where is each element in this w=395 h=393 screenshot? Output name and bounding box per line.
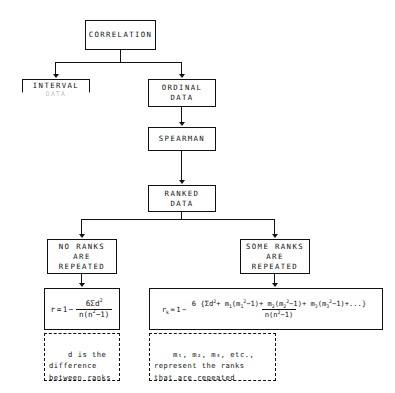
formula-ties-lhs: rk (162, 305, 169, 314)
formula-ties-t2-c: −1) (289, 299, 302, 308)
arrow-formula-right (272, 283, 278, 287)
note-d-definition: d is the difference between ranks (44, 333, 120, 381)
node-ordinal-data-label: ORDINAL DATA (162, 83, 203, 103)
node-spearman[interactable]: SPEARMAN (148, 127, 216, 151)
formula-ties-num-tail: +...} (345, 299, 366, 308)
node-no-ranks-repeated-label: NO RANKS ARE REPEATED (59, 242, 105, 272)
formula-box-ties: rk = 1 − 6 {Σd2+ m1(m12−1)+ m2(m22−1)+ m… (149, 288, 383, 330)
node-ordinal-data[interactable]: ORDINAL DATA (148, 79, 216, 107)
connector-root-down (120, 50, 121, 62)
connector-split-bottom (81, 219, 275, 220)
formula-ties-minus: − (181, 305, 188, 314)
formula-ties-num-lead: 6 {Σd (192, 299, 213, 308)
formula-ties-t1-sub2: 1 (240, 304, 243, 309)
node-no-ranks-repeated[interactable]: NO RANKS ARE REPEATED (47, 239, 117, 274)
formula-box-no-ties: r = 1 − 6Σd2 n(n2−1) (44, 288, 120, 330)
node-spearman-label: SPEARMAN (159, 134, 205, 144)
formula-no-ties: r = 1 − 6Σd2 n(n2−1) (51, 299, 114, 319)
formula-ties-t3-b: (m (318, 299, 327, 308)
formula-ties-t3-sub2: 3 (326, 304, 329, 309)
node-some-ranks-repeated-label: SOME RANKS ARE REPEATED (246, 242, 304, 272)
formula-ties-denominator: n(n2−1) (262, 309, 297, 320)
node-correlation[interactable]: CORRELATION (85, 20, 156, 50)
note-m-definition-text: m₁, m₂, m₃, etc., represent the ranks th… (154, 350, 254, 382)
formula-ties-equals: = (169, 305, 176, 314)
formula-ties-den-b: −1) (280, 310, 293, 319)
formula-no-ties-numerator: 6Σd2 (83, 299, 106, 309)
formula-no-ties-den-a: n(n (79, 310, 93, 319)
formula-ties-numerator: 6 {Σd2+ m1(m12−1)+ m2(m22−1)+ m3(m32−1)+… (189, 299, 369, 309)
node-ranked-data[interactable]: RANKED DATA (148, 185, 216, 212)
formula-ties-t3-a: + m (302, 299, 315, 308)
connector-spearman-to-ranked (181, 151, 182, 182)
formula-ties: rk = 1 − 6 {Σd2+ m1(m12−1)+ m2(m22−1)+ m… (162, 299, 370, 319)
formula-no-ties-fraction: 6Σd2 n(n2−1) (76, 299, 113, 319)
node-some-ranks-repeated[interactable]: SOME RANKS ARE REPEATED (240, 239, 310, 274)
formula-ties-t3-c: −1) (332, 299, 345, 308)
formula-ties-fraction: 6 {Σd2+ m1(m12−1)+ m2(m22−1)+ m3(m32−1)+… (189, 299, 369, 319)
formula-ties-t2-a: + m (259, 299, 272, 308)
formula-no-ties-denominator: n(n2−1) (76, 309, 113, 320)
node-interval-faded-label: DATA (23, 89, 89, 99)
formula-no-ties-num-base: 6Σd (86, 299, 100, 308)
note-m-definition: m₁, m₂, m₃, etc., represent the ranks th… (149, 333, 276, 381)
arrow-ranked (179, 180, 185, 184)
formula-ties-t2-b: (m (275, 299, 284, 308)
arrow-interval (53, 74, 59, 78)
formula-no-ties-num-exp: 2 (99, 297, 102, 303)
formula-ties-t1-c: −1) (246, 299, 259, 308)
formula-no-ties-equals: = (55, 305, 63, 314)
arrow-formula-left (79, 283, 85, 287)
arrow-spearman (179, 122, 185, 126)
correlation-flowchart: CORRELATION INTERVAL DATA ORDINAL DATA S… (0, 0, 395, 393)
formula-ties-den-a: n(n (265, 310, 278, 319)
node-interval[interactable]: INTERVAL DATA (22, 79, 90, 93)
connector-ranked-down (181, 212, 182, 219)
connector-split-top (55, 62, 182, 63)
formula-no-ties-minus: − (67, 305, 75, 314)
formula-ties-t1-a: + m (216, 299, 229, 308)
arrow-ordinal (179, 74, 185, 78)
note-d-definition-text: d is the difference between ranks (49, 350, 111, 382)
node-correlation-label: CORRELATION (89, 30, 153, 40)
arrow-no-ranks (79, 234, 85, 238)
node-ranked-data-label: RANKED DATA (165, 189, 200, 209)
formula-no-ties-den-b: −1) (96, 310, 110, 319)
arrow-some-ranks (272, 234, 278, 238)
